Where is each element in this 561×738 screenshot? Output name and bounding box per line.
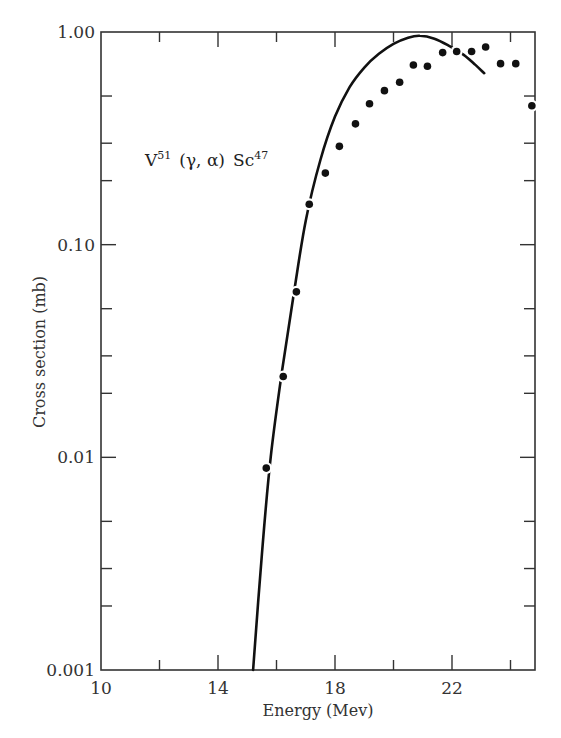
calculated-curve-path <box>253 36 484 670</box>
plot-border <box>101 32 535 670</box>
annotation-product: Sc <box>233 150 254 170</box>
annotation-target-mass: 51 <box>157 149 171 162</box>
y-tick-label: 1.00 <box>57 22 95 42</box>
data-point <box>497 60 505 68</box>
x-tick-label: 10 <box>90 678 112 698</box>
data-point <box>528 102 536 110</box>
data-point <box>410 61 418 69</box>
data-point <box>279 373 287 381</box>
reaction-annotation: V51(γ, α)Sc47 <box>144 149 268 170</box>
data-point <box>424 62 432 70</box>
axis-tick-labels: 101418221.000.100.010.001 <box>46 22 462 698</box>
cross-section-chart: 101418221.000.100.010.001 V51(γ, α)Sc47 … <box>0 0 561 738</box>
x-axis-label: Energy (Mev) <box>263 701 374 720</box>
data-point <box>453 48 461 56</box>
data-point <box>381 87 389 95</box>
data-point <box>512 60 520 68</box>
axis-ticks <box>101 32 535 670</box>
x-tick-label: 14 <box>207 678 229 698</box>
y-tick-label: 0.01 <box>57 447 95 467</box>
data-point <box>468 48 476 56</box>
data-point <box>396 79 404 87</box>
data-point <box>352 120 360 128</box>
y-axis-label: Cross section (mb) <box>30 276 49 428</box>
data-point <box>293 288 301 296</box>
y-tick-label: 0.001 <box>46 660 95 680</box>
annotation-reaction: (γ, α) <box>179 150 225 170</box>
y-tick-label: 0.10 <box>57 235 95 255</box>
data-point <box>482 43 490 51</box>
measured-points <box>260 41 538 474</box>
calculated-curve <box>253 36 484 670</box>
annotation-target: V <box>144 150 158 170</box>
data-point <box>305 200 313 208</box>
data-point <box>366 100 374 108</box>
data-point <box>439 49 447 57</box>
annotation-product-mass: 47 <box>254 149 268 162</box>
plot-frame <box>101 32 535 670</box>
x-tick-label: 22 <box>441 678 463 698</box>
data-point <box>336 143 344 151</box>
x-tick-label: 18 <box>324 678 346 698</box>
data-point <box>262 464 270 472</box>
data-point <box>322 169 330 177</box>
